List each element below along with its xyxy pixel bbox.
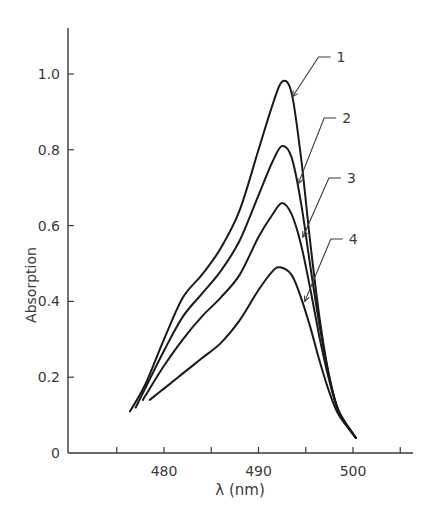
curve-label-2: 2 [342,110,351,126]
curve-label-4: 4 [349,231,358,247]
x-axis-label: λ (nm) [215,481,264,499]
x-tick-label: 490 [245,463,272,479]
x-tick-label: 480 [151,463,178,479]
y-tick-label: 0 [51,445,60,461]
y-tick-label: 0.8 [38,142,60,158]
y-axis-label: Absorption [23,247,39,323]
absorption-spectrum-chart: 00.20.40.60.81.0480490500 1234 Absorptio… [0,0,435,523]
x-tick-label: 500 [340,463,367,479]
y-tick-label: 0.2 [38,369,60,385]
curve-label-1: 1 [337,49,346,65]
y-tick-label: 1.0 [38,66,60,82]
axes: 00.20.40.60.81.0480490500 [38,28,413,479]
curve-3 [143,203,356,438]
curve-label-3: 3 [347,170,356,186]
plot-area: 00.20.40.60.81.0480490500 1234 Absorptio… [0,0,435,523]
leader-line-1 [293,57,331,97]
y-tick-label: 0.6 [38,218,60,234]
y-tick-label: 0.4 [38,293,60,309]
